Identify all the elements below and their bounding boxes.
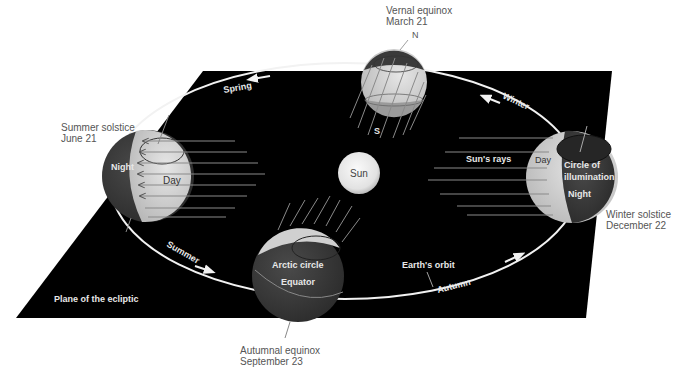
sun-label: Sun <box>350 168 368 179</box>
winter-day-label: Day <box>535 155 552 165</box>
circle-of-illumination-label: Circle of <box>564 160 601 170</box>
vernal-equinox-title: Vernal equinox <box>386 5 452 16</box>
arctic-circle-label: Arctic circle <box>272 260 324 270</box>
circle-of-illumination-label-2: illumination <box>564 172 615 182</box>
plane-label: Plane of the ecliptic <box>54 294 139 304</box>
south-label: S <box>374 126 380 136</box>
summer-solstice-date: June 21 <box>61 133 97 144</box>
summer-solstice-title: Summer solstice <box>61 122 135 133</box>
seasons-diagram: Spring Winter Summer Autumn Sun Earth's … <box>0 0 676 381</box>
suns-rays-label: Sun's rays <box>466 154 511 164</box>
winter-night-label: Night <box>568 189 591 199</box>
orbit-label: Earth's orbit <box>402 260 455 270</box>
autumnal-equinox-date: September 23 <box>240 356 303 367</box>
summer-day-label: Day <box>163 175 181 186</box>
winter-solstice-title: Winter solstice <box>606 209 671 220</box>
winter-solstice-date: December 22 <box>606 220 666 231</box>
vernal-equinox-date: March 21 <box>386 16 428 27</box>
north-label: N <box>412 30 419 40</box>
autumnal-equinox-title: Autumnal equinox <box>240 345 320 356</box>
summer-night-label: Night <box>111 162 134 172</box>
sun: Sun <box>338 152 380 194</box>
equator-label: Equator <box>281 277 315 287</box>
